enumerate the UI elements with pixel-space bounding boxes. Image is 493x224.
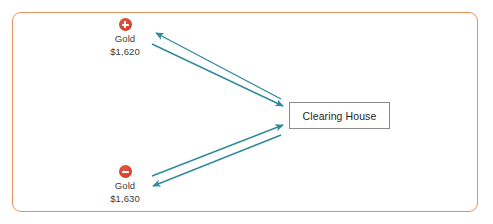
minus-circle-icon [119, 165, 132, 178]
node-gold-buy-label: Gold [82, 33, 168, 46]
node-gold-sell-price: $1,630 [82, 193, 168, 206]
plus-circle-icon [119, 18, 132, 31]
node-gold-sell: Gold $1,630 [82, 165, 168, 205]
node-gold-sell-label: Gold [82, 180, 168, 193]
node-gold-buy: Gold $1,620 [82, 18, 168, 58]
clearing-house-box: Clearing House [289, 102, 390, 129]
plus-vertical-stroke [124, 21, 126, 28]
minus-horizontal-stroke [122, 171, 129, 173]
clearing-house-label: Clearing House [303, 110, 377, 122]
node-gold-buy-price: $1,620 [82, 46, 168, 59]
diagram-screenshot: Gold $1,620 Gold $1,630 Clearing House [0, 0, 493, 224]
